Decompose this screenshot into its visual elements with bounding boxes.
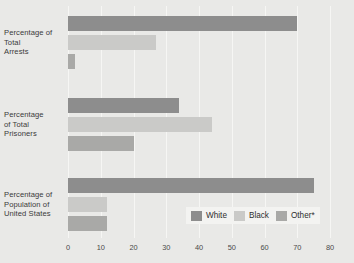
bar-black-group2: [68, 117, 212, 132]
bar-white-group3: [68, 178, 314, 193]
bar-white-group1: [68, 16, 297, 31]
gridline-60: [265, 6, 266, 238]
bar-black-group3: [68, 197, 107, 212]
legend-item-other: Other*: [276, 211, 315, 221]
category-label-line: of Total: [4, 120, 66, 130]
bar-other-group1: [68, 54, 75, 69]
category-label-arrests: Percentage ofTotalArrests: [4, 28, 66, 57]
category-label-line: Prisoners: [4, 129, 66, 139]
legend-item-white: White: [191, 211, 227, 221]
bar-other-group3: [68, 216, 107, 231]
category-label-line: Percentage: [4, 110, 66, 120]
bar-chart: Percentage ofTotalArrests Percentageof T…: [0, 0, 354, 263]
legend-item-black: Black: [234, 211, 269, 221]
x-tick-label-80: 80: [318, 243, 342, 252]
x-tick-label-30: 30: [154, 243, 178, 252]
category-label-line: Total: [4, 38, 66, 48]
x-tick-label-20: 20: [122, 243, 146, 252]
x-tick-label-0: 0: [56, 243, 80, 252]
x-tick-label-10: 10: [89, 243, 113, 252]
chart-legend: WhiteBlackOther*: [186, 207, 320, 224]
x-tick-label-60: 60: [253, 243, 277, 252]
bar-black-group1: [68, 35, 156, 50]
bar-white-group2: [68, 98, 179, 113]
category-label-line: Percentage of: [4, 190, 66, 200]
bar-other-group2: [68, 136, 134, 151]
x-tick-label-50: 50: [220, 243, 244, 252]
category-label-population: Percentage ofPopulation ofUnited States: [4, 190, 66, 219]
legend-label: White: [206, 211, 227, 220]
legend-label: Black: [249, 211, 269, 220]
legend-label: Other*: [291, 211, 315, 220]
category-label-line: Arrests: [4, 47, 66, 57]
x-tick-label-40: 40: [187, 243, 211, 252]
plot-area: [68, 6, 330, 238]
category-label-prisoners: Percentageof TotalPrisoners: [4, 110, 66, 139]
category-label-line: United States: [4, 209, 66, 219]
legend-swatch-icon: [234, 211, 245, 221]
legend-swatch-icon: [276, 211, 287, 221]
category-label-line: Percentage of: [4, 28, 66, 38]
x-tick-label-70: 70: [285, 243, 309, 252]
legend-swatch-icon: [191, 211, 202, 221]
gridline-50: [232, 6, 233, 238]
gridline-80: [330, 6, 331, 238]
gridline-70: [297, 6, 298, 238]
category-label-line: Population of: [4, 200, 66, 210]
